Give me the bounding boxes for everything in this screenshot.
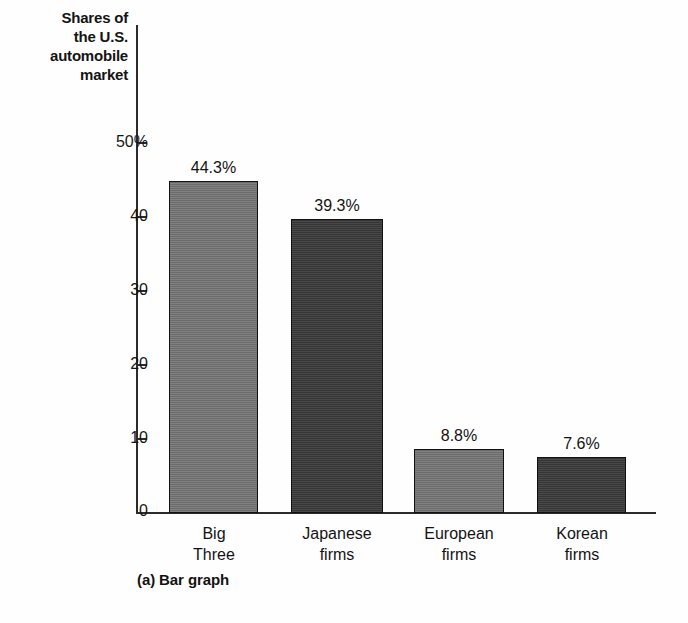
bar-korean-firms — [537, 457, 626, 513]
category-label-japanese-firms: Japanese firms — [277, 523, 397, 565]
category-label-big-three: Big Three — [154, 523, 274, 565]
bar-big-three — [169, 181, 258, 513]
category-label-korean-firms-line-2: firms — [522, 544, 642, 565]
bar-value-big-three: 44.3% — [169, 160, 258, 176]
category-label-japanese-firms-line-2: firms — [277, 544, 397, 565]
category-label-european-firms: European firms — [399, 523, 519, 565]
category-label-big-three-line-1: Big — [154, 523, 274, 544]
category-label-korean-firms: Korean firms — [522, 523, 642, 565]
bar-value-european-firms: 8.8% — [414, 428, 504, 444]
bar-value-japanese-firms: 39.3% — [291, 198, 383, 214]
category-label-big-three-line-2: Three — [154, 544, 274, 565]
category-label-korean-firms-line-1: Korean — [522, 523, 642, 544]
bar-european-firms — [414, 449, 504, 513]
bar-japanese-firms — [291, 219, 383, 513]
category-label-european-firms-line-1: European — [399, 523, 519, 544]
bar-value-korean-firms: 7.6% — [537, 436, 626, 452]
category-label-european-firms-line-2: firms — [399, 544, 519, 565]
category-label-japanese-firms-line-1: Japanese — [277, 523, 397, 544]
figure-caption: (a) Bar graph — [137, 571, 229, 588]
bar-chart-figure: Shares of the U.S. automobile market 50%… — [0, 0, 688, 623]
